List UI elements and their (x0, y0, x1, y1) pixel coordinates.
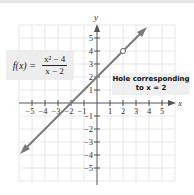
svg-text:5: 5 (89, 33, 93, 43)
svg-text:−4: −4 (38, 106, 48, 116)
svg-text:1: 1 (108, 106, 112, 116)
svg-text:−5: −5 (25, 106, 34, 116)
svg-text:3: 3 (89, 59, 93, 69)
svg-text:−3: −3 (84, 137, 93, 147)
svg-text:−5: −5 (84, 163, 93, 173)
x-tick-labels: −5 −4 −3 −2 −1 1 2 3 4 5 (25, 106, 164, 116)
svg-text:4: 4 (147, 106, 152, 116)
x-axis-label: x (177, 98, 182, 108)
hole-marker (121, 49, 126, 54)
formula-numerator: x² − 4 (42, 54, 67, 66)
y-axis (94, 24, 100, 185)
svg-text:−1: −1 (84, 111, 93, 121)
graph-canvas: x y −5 −4 −3 −2 −1 1 2 3 4 5 5 4 3 2 1 −… (0, 0, 194, 195)
y-axis-label: y (93, 12, 98, 22)
hole-annotation-line1: Hole corresponding (112, 75, 190, 84)
svg-text:−4: −4 (84, 150, 94, 160)
svg-text:3: 3 (134, 106, 138, 116)
function-formula: f(x) = x² − 4 x − 2 (6, 50, 74, 80)
svg-text:1: 1 (89, 85, 93, 95)
svg-text:−2: −2 (84, 124, 93, 134)
svg-text:2: 2 (121, 106, 125, 116)
hole-annotation: Hole corresponding to x = 2 (112, 73, 190, 95)
svg-text:5: 5 (160, 106, 164, 116)
formula-denominator: x − 2 (45, 66, 64, 77)
hole-annotation-line2: to x = 2 (112, 84, 190, 93)
formula-fraction: x² − 4 x − 2 (42, 54, 67, 77)
formula-lhs: f(x) = (13, 60, 36, 71)
